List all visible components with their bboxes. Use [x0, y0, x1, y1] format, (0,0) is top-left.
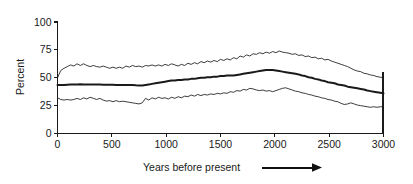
figure-panel: Percent 0255075100 050010001500200025003…	[0, 0, 413, 184]
y-tick-label: 100	[34, 16, 52, 28]
x-tick-label: 1000	[154, 138, 178, 150]
series-upper-bound	[58, 51, 384, 78]
x-tick-label: 3000	[372, 138, 396, 150]
direction-arrow-head	[312, 163, 322, 172]
x-axis-title: Years before present	[143, 161, 240, 173]
series-layer	[58, 51, 384, 107]
x-tick-label: 2500	[317, 138, 341, 150]
x-tick-label: 1500	[209, 138, 233, 150]
x-tick-label: 2000	[263, 138, 287, 150]
y-axis-title: Percent	[14, 59, 26, 95]
series-lower-bound	[58, 88, 384, 108]
y-tick-label: 0	[46, 127, 52, 139]
series-mean	[58, 70, 384, 93]
y-axis-tick-labels: 0255075100	[34, 16, 52, 140]
x-tick-label: 0	[55, 138, 61, 150]
y-tick-label: 50	[40, 71, 52, 83]
x-axis-tick-labels: 050010001500200025003000	[55, 138, 396, 150]
y-tick-label: 25	[40, 99, 52, 111]
y-tick-label: 75	[40, 43, 52, 55]
line-chart: Percent 0255075100 050010001500200025003…	[0, 0, 413, 184]
x-tick-label: 500	[103, 138, 121, 150]
